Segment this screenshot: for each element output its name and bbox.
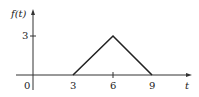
y-axis-arrow-icon — [31, 9, 35, 15]
origin-label: 0 — [24, 80, 30, 91]
x-tick-label-3: 3 — [70, 80, 76, 91]
x-axis-label: t — [185, 80, 190, 91]
triangle-pulse-chart: f(t) 3 0 3 6 9 t — [0, 0, 199, 97]
x-tick-label-9: 9 — [149, 80, 155, 91]
x-axis-arrow-icon — [186, 73, 192, 77]
pulse-line — [73, 36, 152, 75]
x-tick-label-6: 6 — [110, 80, 116, 91]
y-tick-label-3: 3 — [22, 30, 28, 41]
y-axis-label: f(t) — [10, 8, 27, 19]
